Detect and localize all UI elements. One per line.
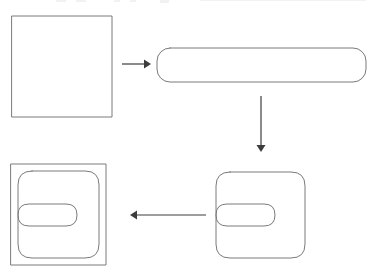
shape-transformation-diagram xyxy=(0,0,370,280)
arrow-bar-to-notched xyxy=(257,96,266,152)
shape-rounded-bar xyxy=(157,48,366,82)
diagram-canvas xyxy=(0,0,370,280)
arrow-square-to-bar xyxy=(122,60,151,69)
top-edge-artifact xyxy=(56,0,366,3)
shape-notched-in-square xyxy=(11,164,106,265)
shape-notched xyxy=(216,172,305,258)
arrow-notched-to-framed xyxy=(130,211,206,220)
shape-square xyxy=(12,16,112,117)
